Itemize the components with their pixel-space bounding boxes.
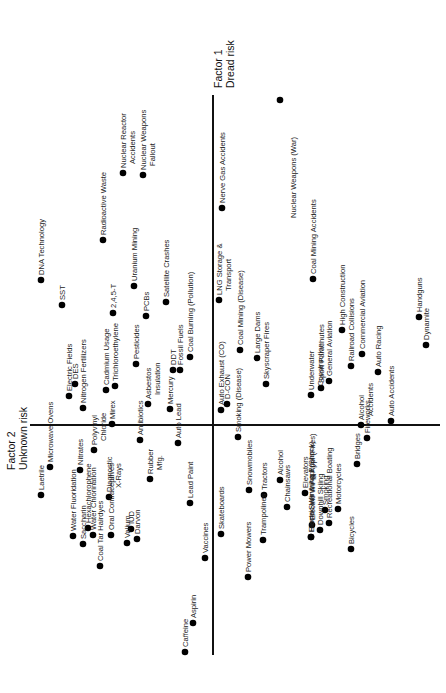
data-point: Pesticides <box>132 324 141 367</box>
point-label: Saccharin <box>79 505 88 539</box>
data-point: Coal Burning (Pollution) <box>186 271 195 360</box>
point-label: Railroad Collisions <box>347 298 356 361</box>
point-marker <box>143 313 150 320</box>
factor1-axis-title: Factor 1 Dread risk <box>212 39 236 88</box>
point-marker <box>308 534 315 541</box>
point-label: Coal Tar Hairdyes <box>96 501 105 561</box>
point-marker <box>216 297 223 304</box>
point-label: Fossil Fuels <box>176 324 185 365</box>
data-point: Bicycles <box>347 516 356 552</box>
point-marker <box>235 434 242 441</box>
point-label: Chloride <box>99 413 108 441</box>
point-marker <box>224 401 231 408</box>
data-point: Skyscraper Fires <box>262 322 271 387</box>
point-label: Snowmobiles <box>245 440 254 485</box>
data-point: Chainsaws <box>283 465 292 511</box>
point-label: SST <box>58 285 67 300</box>
point-marker <box>145 401 152 408</box>
point-marker <box>137 437 144 444</box>
point-label: Bridges <box>353 433 362 459</box>
point-marker <box>131 283 138 290</box>
data-point: 2,4,5-T <box>109 284 118 317</box>
point-marker <box>97 563 104 570</box>
point-label: Cadmium Usage <box>102 328 111 385</box>
data-point: Coal Tar Hairdyes <box>96 501 105 570</box>
data-point: Motorcycles <box>334 463 343 512</box>
point-marker <box>354 461 361 468</box>
point-marker <box>163 299 170 306</box>
point-marker <box>120 170 127 177</box>
point-label: High Construction <box>338 265 347 325</box>
point-label: Trichloroethylene <box>111 323 120 381</box>
factor2-title-line1: Factor 2 <box>5 431 17 470</box>
point-marker <box>218 531 225 538</box>
point-marker <box>124 540 131 547</box>
data-point: Mirex <box>108 400 117 427</box>
point-label: Nerve Gas Accidents <box>218 132 227 203</box>
point-label: Dynamite <box>422 308 431 340</box>
point-marker <box>38 492 45 499</box>
point-marker <box>246 487 253 494</box>
point-label: Accidents <box>128 131 137 164</box>
point-label: Nuclear Reactor <box>119 113 128 168</box>
point-label: Recreational Boating <box>325 448 334 519</box>
data-point: AsbestosInsulation <box>144 362 162 407</box>
point-marker <box>72 381 79 388</box>
data-point: Smoking (Disease) <box>234 367 243 440</box>
data-point: High Construction <box>338 265 347 334</box>
point-marker <box>254 355 261 362</box>
point-label: Auto Accidents <box>387 366 396 416</box>
point-label: Commercial Aviation <box>358 280 367 349</box>
point-label: Radioactive Waste <box>99 172 108 235</box>
data-point: Skateboards <box>217 486 226 537</box>
point-marker <box>364 435 371 442</box>
point-marker <box>388 418 395 425</box>
point-label: Vaccines <box>201 523 210 553</box>
point-label: Darvon <box>133 510 142 534</box>
point-marker <box>170 367 177 374</box>
point-label: Electric Wir & Appl (Shock) <box>307 441 316 532</box>
point-label: Nitrogen Fertilizers <box>79 339 88 403</box>
data-point: Satellite Crashes <box>162 239 171 305</box>
point-label: Handguns <box>415 277 424 312</box>
data-point: Radioactive Waste <box>99 172 108 243</box>
point-label: Rubber <box>146 449 155 474</box>
data-point: Dynamite <box>422 308 431 348</box>
point-marker <box>167 406 174 413</box>
point-marker <box>112 383 119 390</box>
point-marker <box>348 363 355 370</box>
data-point: Lead Paint <box>186 461 195 507</box>
point-marker <box>175 440 182 447</box>
point-label: Auto Lead <box>174 403 183 438</box>
point-label: Construction <box>316 343 325 386</box>
point-marker <box>375 369 382 376</box>
point-label: Microwave Ovens <box>46 401 55 462</box>
data-point: Trampolines <box>259 493 268 543</box>
point-marker <box>237 347 244 354</box>
point-label: Nitrates <box>76 439 85 465</box>
point-marker <box>134 536 141 543</box>
data-point: RubberMfg. <box>146 449 164 483</box>
point-marker <box>177 367 184 374</box>
point-marker <box>326 378 333 385</box>
point-label: Coal Mining Accidents <box>309 199 318 274</box>
data-point: Snowmobiles <box>245 440 254 494</box>
data-point: Valium <box>123 515 132 546</box>
point-label: 2,4,5-T <box>109 284 118 308</box>
point-marker <box>108 532 115 539</box>
point-marker <box>38 277 45 284</box>
point-label: Caffeine <box>181 619 190 647</box>
data-point: Coal Mining (Disease) <box>236 270 245 353</box>
point-label: Skateboards <box>217 486 226 529</box>
data-point: Microwave Ovens <box>46 401 55 470</box>
point-label: DNA Technology <box>37 219 46 275</box>
point-label: Smoking (Disease) <box>234 367 243 432</box>
data-point: Bridges <box>353 433 362 467</box>
point-marker <box>263 381 270 388</box>
data-point: Caffeine <box>181 619 190 655</box>
point-label: Polyvinyl <box>90 415 99 445</box>
point-marker <box>147 476 154 483</box>
point-label: Coal Mining (Disease) <box>236 270 245 345</box>
point-marker <box>66 393 73 400</box>
point-label: Fallout <box>148 142 157 166</box>
